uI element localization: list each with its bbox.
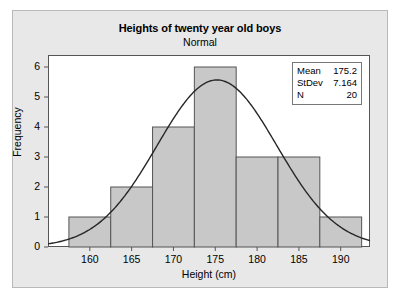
x-axis-tick-label: 175 — [195, 253, 235, 265]
x-axis-ticks — [90, 247, 341, 251]
y-axis-ticks — [44, 67, 48, 247]
x-axis-tick-label: 180 — [237, 253, 277, 265]
histogram-figure: Heights of twenty year old boys Normal 0… — [0, 0, 400, 298]
x-axis-tick-label: 160 — [70, 253, 110, 265]
y-axis-tick-label: 0 — [18, 240, 40, 252]
histogram-bar — [236, 157, 278, 247]
statistics-key: StDev — [297, 77, 323, 89]
x-axis-tick-label: 190 — [321, 253, 361, 265]
histogram-bar — [69, 217, 111, 247]
histogram-bar — [194, 67, 236, 247]
x-axis-tick-label: 185 — [279, 253, 319, 265]
statistics-row: StDev7.164 — [297, 77, 357, 89]
histogram-bar — [111, 187, 153, 247]
histogram-bar — [153, 127, 195, 247]
y-axis-tick-label: 6 — [18, 60, 40, 72]
statistics-key: N — [297, 89, 304, 101]
x-axis-tick-label: 170 — [153, 253, 193, 265]
y-axis-tick-label: 1 — [18, 210, 40, 222]
statistics-value: 7.164 — [333, 77, 357, 89]
statistics-box: Mean175.2StDev7.164N20 — [292, 62, 362, 105]
statistics-row: N20 — [297, 89, 357, 101]
statistics-row: Mean175.2 — [297, 65, 357, 77]
statistics-value: 20 — [346, 89, 357, 101]
statistics-key: Mean — [297, 65, 321, 77]
x-axis-label: Height (cm) — [48, 268, 370, 280]
y-axis-label: Frequency — [11, 72, 23, 192]
statistics-value: 175.2 — [333, 65, 357, 77]
x-axis-tick-label: 165 — [112, 253, 152, 265]
histogram-bar — [320, 217, 362, 247]
